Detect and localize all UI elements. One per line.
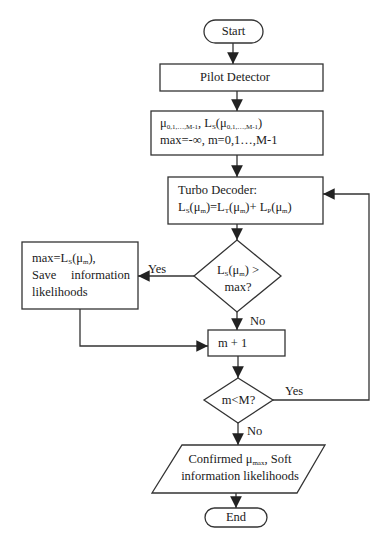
save-line1: max=LS(μm), [32,250,130,267]
output-line2: information likelihoods [165,468,315,485]
decision1-yes-label: Yes [148,262,166,277]
turbo-line1: Turbo Decoder: [178,182,323,199]
decision2-yes-label: Yes [285,384,303,399]
init-line1: μ0,1,…,M-1, LS(μ0,1,…,M-1) [160,115,320,132]
turbo-decoder-label: Turbo Decoder: LS(μm)=LT(μm)+ LP(μm) [178,182,323,216]
save-line2: Save information [32,267,130,284]
save-line3: likelihoods [32,284,130,301]
decision1-no-label: No [250,314,265,329]
decision1-line1: LS(μm) > [198,262,278,279]
end-label: End [205,509,267,526]
init-line2: max=-∞, m=0,1…,M-1 [160,132,320,149]
turbo-line2: LS(μm)=LT(μm)+ LP(μm) [178,199,323,216]
output-label: Confirmed μmax, Soft information likelih… [165,451,315,485]
edge-decision2-yes-loop [273,194,369,400]
save-label: max=LS(μm), Save information likelihoods [32,250,130,301]
decision2-no-label: No [247,424,262,439]
increment-label: m + 1 [218,335,278,352]
decision-likelihood-label: LS(μm) > max? [198,262,278,296]
pilot-detector-label: Pilot Detector [160,69,310,86]
edge-save-increment [80,309,208,346]
start-label: Start [204,23,263,40]
output-line1: Confirmed μmax, Soft [165,451,315,468]
init-label: μ0,1,…,M-1, LS(μ0,1,…,M-1) max=-∞, m=0,1… [160,115,320,149]
decision-loop-label: m<M? [204,392,273,409]
decision1-line2: max? [198,279,278,296]
